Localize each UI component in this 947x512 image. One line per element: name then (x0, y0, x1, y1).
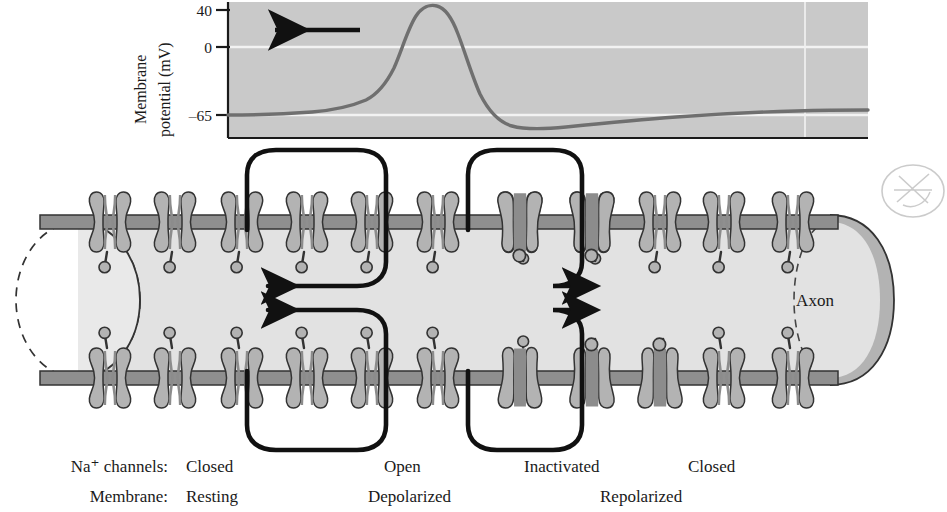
ytick-label-40: 40 (197, 2, 213, 19)
membrane-potential-chart: 40 0 –65 Membrane potential (mV) (132, 2, 868, 138)
caption-membrane-repolarized: Repolarized (600, 487, 683, 506)
caption-na-closed-1: Closed (186, 457, 234, 476)
caption-row-label-membrane: Membrane: (90, 487, 168, 506)
caption-row-label-na-channels: Na⁺ channels: (71, 457, 168, 476)
caption-na-open: Open (384, 457, 421, 476)
caption-na-closed-2: Closed (688, 457, 736, 476)
channel-bottom-9-inactivated[interactable] (638, 338, 682, 408)
channel-bottom-8-inactivated[interactable] (570, 338, 614, 408)
chart-plot-area (228, 2, 868, 138)
figure-canvas: 40 0 –65 Membrane potential (mV) (0, 0, 947, 512)
caption-membrane-resting: Resting (186, 487, 238, 506)
ytick-label-0: 0 (204, 39, 212, 56)
caption-membrane-depolarized: Depolarized (368, 487, 452, 506)
axon-interior (78, 222, 886, 378)
axon-label: Axon (796, 291, 834, 310)
caption-na-inactivated: Inactivated (524, 457, 600, 476)
y-axis-title-line1: Membrane (132, 55, 149, 124)
y-axis-title-line2: potential (mV) (156, 42, 174, 137)
channel-top-inactivated-a[interactable] (498, 192, 542, 262)
ytick-label-minus65: –65 (188, 107, 213, 124)
channel-top-inactivated-b[interactable] (570, 192, 614, 262)
